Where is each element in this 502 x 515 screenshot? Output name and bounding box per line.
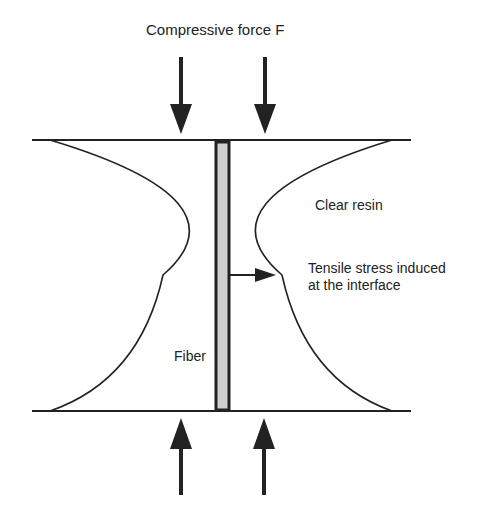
arrow-down-icon (254, 57, 276, 134)
fiber-resin-diagram (0, 0, 502, 515)
tensile-stress-label-line1: Tensile stress induced (308, 260, 446, 277)
arrow-down-icon (170, 57, 192, 134)
clear-resin-label: Clear resin (315, 197, 383, 214)
compressive-force-label: Compressive force F (146, 21, 284, 38)
arrow-up-icon (253, 418, 275, 495)
fiber-label: Fiber (174, 348, 206, 365)
left-resin-boundary (50, 140, 189, 411)
arrow-right-icon (230, 268, 276, 282)
fiber (216, 142, 229, 410)
arrow-up-icon (170, 418, 192, 495)
tensile-stress-label-line2: at the interface (308, 277, 401, 294)
